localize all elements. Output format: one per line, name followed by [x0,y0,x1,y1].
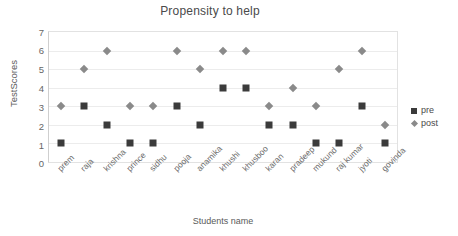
chart-legend: pre post [411,104,438,130]
data-point-post-raja [80,65,88,73]
data-point-post-pooja [172,46,180,54]
data-point-post-mukund [312,102,320,110]
gridline-y-1 [49,143,397,144]
data-point-pre-anamika [196,121,203,128]
legend-swatch-post-icon [411,120,418,127]
data-point-post-khushi [219,46,227,54]
y-tick-7: 7 [22,28,44,38]
data-point-pre-jyoti [359,103,366,110]
legend-label-post: post [421,119,438,128]
data-point-pre-mukund [312,140,319,147]
x-axis-label: Students name [48,216,398,226]
y-tick-5: 5 [22,65,44,75]
data-point-pre-prince [127,140,134,147]
legend-swatch-pre-icon [411,108,417,114]
data-point-post-govinda [381,121,389,129]
y-tick-6: 6 [22,46,44,56]
data-point-pre-khusboo [243,84,250,91]
data-point-pre-pradeep [289,121,296,128]
chart-container: Propensity to help TestScores 7 6 5 4 3 … [0,0,458,236]
y-tick-4: 4 [22,84,44,94]
data-point-post-prince [126,102,134,110]
data-point-pre-prem [57,140,64,147]
legend-item-pre[interactable]: pre [411,104,438,117]
y-tick-2: 2 [22,122,44,132]
data-point-post-prem [56,102,64,110]
data-point-pre-karan [266,121,273,128]
y-tick-0: 0 [22,159,44,169]
data-point-post-sidhu [149,102,157,110]
y-axis-label: TestScores [8,49,19,119]
gridline-y-3 [49,106,397,107]
data-point-pre-raja [80,103,87,110]
data-point-post-jyoti [358,46,366,54]
data-point-post-anamika [196,65,204,73]
chart-title: Propensity to help [0,4,420,18]
data-point-post-krishna [103,46,111,54]
data-point-pre-krishna [104,121,111,128]
plot-area [48,31,398,163]
data-point-pre-govinda [382,140,389,147]
gridline-y-5 [49,69,397,70]
data-point-pre-sidhu [150,140,157,147]
data-point-post-karan [265,102,273,110]
data-point-pre-pooja [173,103,180,110]
legend-label-pre: pre [421,106,434,115]
data-point-post-raj-kumar [335,65,343,73]
y-tick-3: 3 [22,103,44,113]
y-tick-1: 1 [22,141,44,151]
legend-item-post[interactable]: post [411,117,438,130]
gridline-y-2 [49,125,397,126]
data-point-post-khusboo [242,46,250,54]
data-point-post-pradeep [288,83,296,91]
data-point-pre-khushi [220,84,227,91]
data-point-pre-raj-kumar [336,140,343,147]
